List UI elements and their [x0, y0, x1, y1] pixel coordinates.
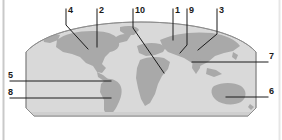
callout-label-8: 8	[8, 88, 13, 97]
callout-label-10: 10	[135, 6, 145, 15]
callout-label-2: 2	[99, 6, 104, 15]
callout-label-3: 3	[219, 6, 224, 15]
antarctic-rim-landmass	[26, 112, 256, 116]
callout-label-9: 9	[189, 6, 194, 15]
world-map-figure: 4 2 10 1 9 3 7 6 5 8	[0, 0, 282, 140]
callout-label-6: 6	[269, 87, 274, 96]
callout-label-5: 5	[8, 71, 13, 80]
callout-label-1: 1	[175, 6, 180, 15]
callout-label-4: 4	[68, 6, 73, 15]
callout-label-7: 7	[269, 52, 274, 61]
world-map-svg	[0, 0, 282, 140]
